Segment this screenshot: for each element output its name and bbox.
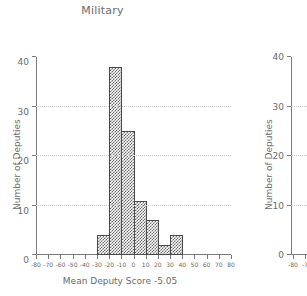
chart-page: Military 010203040-80-70-60-50-40-30-20-… <box>0 0 307 296</box>
y-tick-label-right-40: 40 <box>273 52 284 62</box>
y-tick-label-right-20: 20 <box>273 151 284 161</box>
x-tick--40 <box>85 255 86 259</box>
gridline-y-20 <box>36 155 231 156</box>
x-tick-label--20: -20 <box>104 261 114 268</box>
x-tick-label-right-0: -80 <box>288 261 298 268</box>
histogram-panel-right-truncated: 010203040-80-7 Number of Deputies <box>246 0 307 296</box>
y-tick-right-30 <box>287 106 291 107</box>
x-tick-label-right-1: -7 <box>302 261 307 268</box>
y-tick-label-right-0: 0 <box>278 250 284 260</box>
x-tick--30 <box>97 255 98 259</box>
y-tick-label-right-10: 10 <box>273 201 284 211</box>
histogram-panel-military: Military 010203040-80-70-60-50-40-30-20-… <box>0 0 240 296</box>
x-tick-label-30: 30 <box>166 261 174 268</box>
gridline-right-y-10 <box>291 205 307 206</box>
x-tick-30 <box>170 255 171 259</box>
y-tick-40 <box>32 56 36 57</box>
x-tick-label-20: 20 <box>154 261 162 268</box>
x-tick-20 <box>158 255 159 259</box>
bar-30-to-40 <box>170 235 183 255</box>
x-tick-label--50: -50 <box>68 261 78 268</box>
x-tick-80 <box>231 255 232 259</box>
chart-title: Military <box>0 4 205 17</box>
x-tick-label-80: 80 <box>227 261 235 268</box>
x-tick-label-60: 60 <box>203 261 211 268</box>
gridline-right-y-30 <box>291 106 307 107</box>
bars-group <box>36 57 231 255</box>
x-tick-label-10: 10 <box>142 261 150 268</box>
y-axis-title: Number of Deputies <box>12 119 22 210</box>
x-tick-label--10: -10 <box>116 261 126 268</box>
x-tick--50 <box>73 255 74 259</box>
x-tick-40 <box>182 255 183 259</box>
x-tick--20 <box>109 255 110 259</box>
x-tick-50 <box>194 255 195 259</box>
x-tick-10 <box>146 255 147 259</box>
x-tick-label--40: -40 <box>80 261 90 268</box>
x-tick-0 <box>134 255 135 259</box>
y-tick-right-20 <box>287 155 291 156</box>
x-tick-60 <box>207 255 208 259</box>
gridline-right-y-20 <box>291 155 307 156</box>
gridline-y-30 <box>36 106 231 107</box>
y-tick-right-40 <box>287 56 291 57</box>
x-axis-title: Mean Deputy Score -5.05 <box>0 276 240 286</box>
x-tick-label-70: 70 <box>215 261 223 268</box>
x-tick-right-1 <box>305 255 306 259</box>
y-axis-title-right: Number of Deputies <box>264 119 274 210</box>
x-tick-label--30: -30 <box>92 261 102 268</box>
x-tick-label-0: 0 <box>132 261 136 268</box>
x-tick-label--80: -80 <box>31 261 41 268</box>
y-tick-30 <box>32 106 36 107</box>
plot-area-right: 010203040-80-7 <box>291 57 307 255</box>
x-tick--60 <box>60 255 61 259</box>
gridline-y-10 <box>36 205 231 206</box>
x-tick-label--70: -70 <box>43 261 53 268</box>
y-tick-label-right-30: 30 <box>273 102 284 112</box>
y-tick-10 <box>32 205 36 206</box>
x-tick--10 <box>121 255 122 259</box>
x-tick-right-0 <box>293 255 294 259</box>
plot-area: 010203040-80-70-60-50-40-30-20-100102030… <box>36 57 231 255</box>
x-tick--80 <box>36 255 37 259</box>
x-tick-label-50: 50 <box>191 261 199 268</box>
x-tick-label--60: -60 <box>55 261 65 268</box>
y-tick-right-0 <box>287 254 291 255</box>
x-tick--70 <box>48 255 49 259</box>
y-tick-right-10 <box>287 205 291 206</box>
x-tick-label-40: 40 <box>178 261 186 268</box>
y-tick-20 <box>32 155 36 156</box>
y-axis-line-right <box>291 57 292 255</box>
x-tick-70 <box>219 255 220 259</box>
